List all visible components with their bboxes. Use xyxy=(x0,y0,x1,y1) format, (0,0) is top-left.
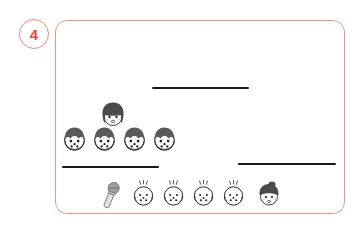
baby-face-icon xyxy=(129,180,158,209)
fringe-face-icon xyxy=(149,124,180,155)
worksheet-canvas: 4 xyxy=(0,0,364,226)
fringe-face-icon xyxy=(59,124,90,155)
baby-face-icon xyxy=(219,180,248,209)
item-number-badge: 4 xyxy=(19,19,49,49)
bun-hair-face-icon xyxy=(255,180,283,210)
microphone-icon xyxy=(97,180,124,212)
baby-face-icon xyxy=(159,180,188,209)
fringe-face-icon xyxy=(119,124,150,155)
baby-face-icon xyxy=(189,180,218,209)
fringe-face-icon xyxy=(89,124,120,155)
